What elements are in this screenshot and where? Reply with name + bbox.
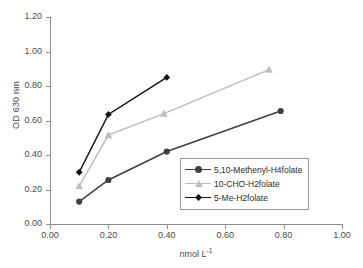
x-tick-mark: [108, 225, 109, 229]
series-3: [76, 74, 170, 176]
legend-label: 5,10-Methenyl-H4folate: [214, 165, 302, 175]
legend-item[interactable]: 5-Me-H2folate: [185, 191, 302, 205]
y-tick-label: 1.20: [0, 11, 42, 21]
x-axis-title: nmol L-1: [50, 249, 342, 259]
data-point-marker: [278, 108, 284, 114]
chart-legend: 5,10-Methenyl-H4folate10-CHO-H2folate5-M…: [180, 158, 309, 210]
x-tick-label: 1.00: [322, 230, 362, 240]
y-tick-label: 0.40: [0, 149, 42, 159]
x-tick-label: 0.20: [88, 230, 128, 240]
x-tick-label: 0.40: [147, 230, 187, 240]
y-tick-label: 1.00: [0, 46, 42, 56]
legend-key-marker: [195, 194, 202, 201]
x-tick-label: 0.60: [205, 230, 245, 240]
y-tick-label: 0.00: [0, 218, 42, 228]
data-point-marker: [164, 148, 170, 154]
legend-key-diamond-icon: [185, 192, 211, 204]
data-point-marker: [105, 177, 111, 183]
y-axis-title: OD 630 nm: [11, 45, 21, 165]
legend-key-marker: [195, 166, 202, 173]
data-point-marker: [75, 182, 83, 189]
legend-key-marker: [195, 180, 203, 187]
data-point-marker: [76, 198, 82, 204]
y-tick-label: 0.80: [0, 80, 42, 90]
x-axis-line: [50, 224, 343, 225]
x-tick-mark: [342, 225, 343, 229]
x-tick-label: 0.00: [30, 230, 70, 240]
x-axis-title-base: nmol L: [179, 249, 206, 259]
legend-key-triangle-icon: [185, 178, 211, 190]
legend-label: 5-Me-H2folate: [214, 193, 268, 203]
data-point-marker: [76, 169, 83, 176]
x-tick-mark: [50, 225, 51, 229]
y-tick-label: 0.60: [0, 115, 42, 125]
legend-key-circle-icon: [185, 164, 211, 176]
chart-container: OD 630 nm nmol L-1 0.000.200.400.600.801…: [0, 0, 363, 268]
legend-item[interactable]: 10-CHO-H2folate: [185, 177, 302, 191]
y-tick-label: 0.20: [0, 184, 42, 194]
x-tick-label: 0.80: [264, 230, 304, 240]
legend-label: 10-CHO-H2folate: [214, 179, 280, 189]
data-point-marker: [265, 66, 273, 73]
legend-item[interactable]: 5,10-Methenyl-H4folate: [185, 163, 302, 177]
x-tick-mark: [167, 225, 168, 229]
x-tick-mark: [284, 225, 285, 229]
x-tick-mark: [225, 225, 226, 229]
x-axis-title-exponent: -1: [206, 247, 212, 254]
